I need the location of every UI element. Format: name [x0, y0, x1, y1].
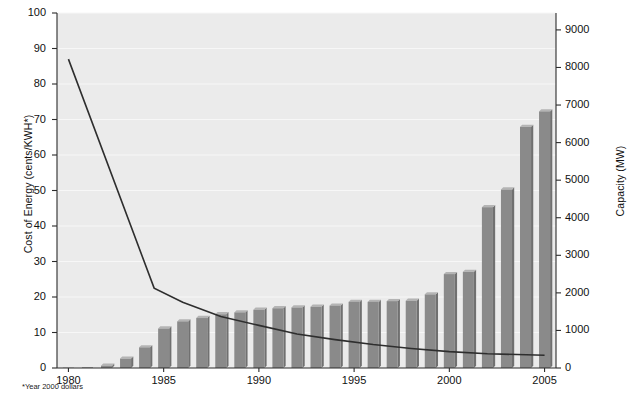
y-axis-left-tick-label: 60: [18, 148, 46, 160]
bar-capacity: [272, 306, 285, 368]
bar-capacity: [444, 272, 457, 368]
y-axis-right-tick-label: 2000: [565, 286, 605, 298]
bar-capacity: [120, 356, 133, 368]
bar-capacity: [291, 305, 304, 368]
y-axis-left-tick-label: 0: [18, 361, 46, 373]
bar-capacity: [158, 326, 171, 368]
bar-capacity: [253, 308, 266, 368]
bar-capacity: [196, 316, 209, 368]
bar-capacity: [177, 319, 190, 368]
bar-capacity: [482, 205, 495, 368]
y-axis-left-tick-label: 30: [18, 255, 46, 267]
y-axis-left-tick-label: 90: [18, 42, 46, 54]
y-axis-right-title: Capacity (MW): [614, 121, 626, 241]
bar-capacity: [139, 345, 152, 368]
y-axis-left-tick-label: 20: [18, 290, 46, 302]
bar-capacity: [539, 109, 552, 368]
y-axis-right-tick-label: 7000: [565, 98, 605, 110]
bar-capacity: [330, 303, 343, 368]
x-axis-tick-label: 1995: [329, 374, 379, 386]
bar-capacity: [425, 292, 438, 368]
bar-capacity: [234, 310, 247, 368]
y-axis-left-tick-label: 10: [18, 326, 46, 338]
y-axis-right-tick-label: 1000: [565, 323, 605, 335]
y-axis-right-tick-label: 8000: [565, 60, 605, 72]
bar-capacity: [501, 187, 514, 368]
y-axis-left-tick-label: 70: [18, 113, 46, 125]
bar-capacity: [101, 364, 114, 368]
y-axis-left-tick-label: 80: [18, 77, 46, 89]
y-axis-left-tick-label: 40: [18, 219, 46, 231]
y-axis-right-tick-label: 9000: [565, 23, 605, 35]
bar-capacity: [215, 312, 228, 368]
y-axis-right-tick-label: 5000: [565, 173, 605, 185]
bar-capacity: [387, 299, 400, 368]
x-axis-tick-label: 2005: [520, 374, 570, 386]
bar-capacity: [349, 300, 362, 368]
bar-capacity: [406, 299, 419, 368]
y-axis-left-tick-label: 50: [18, 184, 46, 196]
y-axis-right-tick-label: 4000: [565, 211, 605, 223]
y-axis-left-tick-label: 100: [18, 6, 46, 18]
x-axis-tick-label: 1980: [43, 374, 93, 386]
bar-capacity: [520, 125, 533, 368]
x-axis-tick-label: 2000: [424, 374, 474, 386]
y-axis-right-tick-label: 0: [565, 361, 605, 373]
x-axis-tick-label: 1985: [139, 374, 189, 386]
bar-capacity: [368, 300, 381, 368]
x-axis-tick-label: 1990: [234, 374, 284, 386]
wind-energy-cost-capacity-chart: Cost of Energy (cents/KWH*) Capacity (MW…: [0, 0, 638, 401]
y-axis-right-tick-label: 3000: [565, 248, 605, 260]
y-axis-right-tick-label: 6000: [565, 136, 605, 148]
plot-canvas: [0, 0, 638, 401]
